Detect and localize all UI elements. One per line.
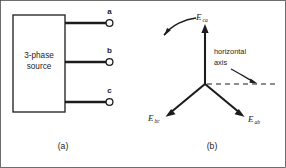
horizontal-axis-label-line2: axis — [214, 58, 227, 67]
panel-b: E ca E bc E ab horizontal axis — [147, 12, 276, 151]
axis-pointer-arrow-icon — [231, 69, 258, 84]
source-label-line1: 3-phase — [24, 51, 54, 60]
panel-a: 3-phase source a b c (a) — [13, 7, 113, 151]
terminal-a: a — [65, 7, 113, 26]
phasor-e-ab-line — [205, 84, 240, 113]
caption-b: (b) — [207, 141, 218, 151]
terminal-circle-b — [106, 59, 113, 66]
phasor-e-ab: E ab — [205, 84, 260, 125]
phasor-e-ab-subscript: ab — [255, 119, 261, 125]
terminal-circle-a — [106, 20, 113, 27]
phasor-e-ca: E ca — [195, 12, 209, 84]
source-label-line2: source — [27, 62, 52, 71]
rotation-arrow-icon — [164, 18, 196, 36]
terminal-c: c — [65, 86, 113, 105]
figure-container: 3-phase source a b c (a) — [0, 0, 286, 168]
horizontal-axis-label-line1: horizontal — [214, 47, 246, 56]
phasor-e-bc-subscript: bc — [155, 118, 161, 124]
terminal-label-c: c — [107, 86, 112, 95]
phasor-e-bc-label: E — [147, 113, 154, 123]
phasor-e-ab-label: E — [247, 114, 254, 124]
caption-a: (a) — [58, 141, 69, 151]
terminal-label-a: a — [107, 7, 112, 16]
terminal-label-b: b — [107, 46, 112, 55]
phasor-e-ca-arrowhead — [201, 24, 208, 33]
phasor-e-bc: E bc — [147, 84, 205, 124]
phasor-e-ca-label: E — [195, 12, 202, 22]
phasor-e-ca-subscript: ca — [203, 17, 208, 23]
terminal-b: b — [65, 46, 113, 65]
phasor-e-bc-line — [170, 84, 205, 113]
terminal-circle-c — [106, 99, 113, 106]
